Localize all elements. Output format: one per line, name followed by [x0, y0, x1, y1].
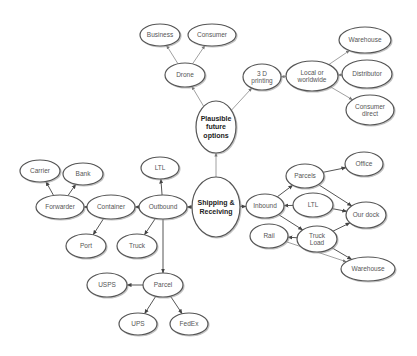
edge-local-worldwide-to-warehouse-top — [329, 50, 350, 64]
node-inbound: Inbound — [246, 194, 284, 218]
node-label: Warehouse — [352, 265, 385, 272]
edge-plausible-to-drone — [192, 86, 204, 106]
node-label: Shipping & — [198, 199, 235, 207]
node-consumer-direct: Consumerdirect — [346, 95, 394, 125]
node-label: future — [206, 123, 226, 130]
edge-inbound-to-parcels — [277, 185, 293, 197]
node-plausible: Plausiblefutureoptions — [196, 101, 236, 153]
node-label: Distributor — [352, 70, 382, 77]
node-warehouse-bottom: Warehouse — [341, 257, 395, 281]
node-bank: Bank — [63, 163, 103, 185]
node-ltl-left: LTL — [141, 157, 179, 179]
node-shipping: Shipping &Receiving — [192, 177, 240, 237]
node-label: FedEx — [180, 320, 200, 327]
node-our-dock: Our dock — [346, 202, 386, 228]
edge-ltl-right-to-our-dock — [332, 209, 347, 212]
node-printing3d: 3 Dprinting — [243, 64, 281, 90]
node-label: Receiving — [199, 208, 232, 216]
node-local-worldwide: Local orworldwide — [286, 61, 338, 91]
node-label: Carrier — [30, 167, 51, 174]
node-label: Load — [310, 239, 325, 246]
node-carrier: Carrier — [20, 160, 60, 182]
node-label: Office — [356, 160, 373, 167]
node-container: Container — [87, 195, 135, 219]
node-consumer: Consumer — [188, 24, 236, 46]
node-usps: USPS — [87, 273, 127, 297]
node-label: Outbound — [149, 203, 178, 210]
node-label: Our dock — [353, 211, 380, 218]
node-label: Business — [147, 31, 174, 38]
node-office: Office — [345, 152, 383, 176]
nodes-layer: BusinessConsumerDrone3 DprintingLocal or… — [20, 24, 395, 335]
node-label: Bank — [76, 170, 92, 177]
node-truck-load: TruckLoad — [297, 226, 337, 252]
node-label: Parcel — [154, 281, 173, 288]
node-ltl-right: LTL — [293, 193, 333, 217]
node-label: Drone — [176, 71, 194, 78]
node-parcel: Parcel — [143, 273, 183, 297]
node-label: Warehouse — [349, 36, 382, 43]
node-label: Truck — [129, 242, 146, 249]
edge-parcel-to-ups — [145, 296, 156, 313]
node-label: 3 D — [257, 70, 267, 77]
edge-truck-load-to-our-dock — [333, 223, 350, 231]
node-label: LTL — [308, 201, 319, 208]
node-distributor: Distributor — [342, 60, 392, 88]
node-label: Consumer — [197, 31, 228, 38]
edge-truck-load-to-rail — [288, 237, 297, 238]
node-label: printing — [251, 77, 273, 85]
node-label: Plausible — [201, 115, 232, 122]
concept-map-diagram: BusinessConsumerDrone3 DprintingLocal or… — [0, 0, 417, 356]
node-fedex: FedEx — [170, 313, 208, 335]
node-business: Business — [140, 24, 180, 46]
node-label: Consumer — [355, 103, 386, 110]
edge-drone-to-consumer — [193, 46, 205, 64]
node-warehouse-top: Warehouse — [339, 27, 391, 53]
edge-outbound-to-ltl-left — [161, 179, 162, 195]
node-drone: Drone — [165, 63, 205, 87]
edge-drone-to-business — [167, 45, 178, 63]
node-label: worldwide — [297, 76, 327, 83]
node-label: Port — [80, 242, 92, 249]
edge-parcels-to-office — [323, 168, 346, 173]
edge-plausible-to-printing3d — [231, 88, 252, 110]
node-label: UPS — [131, 320, 145, 327]
edge-parcel-to-fedex — [170, 296, 182, 314]
node-label: Rail — [263, 232, 275, 239]
edge-outbound-to-truck — [144, 218, 155, 234]
node-label: Truck — [309, 232, 326, 239]
node-label: Parcels — [294, 172, 316, 179]
node-label: options — [203, 132, 228, 140]
node-label: Inbound — [253, 202, 277, 209]
node-outbound: Outbound — [139, 195, 187, 219]
node-label: LTL — [155, 164, 166, 171]
node-forwarder: Forwarder — [36, 195, 84, 219]
node-label: Container — [97, 203, 126, 210]
edge-forwarder-to-carrier — [46, 182, 54, 196]
node-parcels: Parcels — [286, 164, 324, 188]
node-label: Forwarder — [45, 203, 75, 210]
node-truck: Truck — [117, 234, 157, 258]
node-label: Local or — [300, 69, 324, 76]
edge-forwarder-to-bank — [68, 184, 76, 195]
node-label: direct — [362, 110, 378, 117]
node-label: USPS — [98, 281, 116, 288]
node-port: Port — [66, 234, 106, 258]
node-ups: UPS — [119, 313, 157, 335]
edge-container-to-port — [93, 218, 103, 234]
edge-local-worldwide-to-consumer-direct — [330, 87, 352, 100]
node-rail: Rail — [250, 224, 288, 248]
